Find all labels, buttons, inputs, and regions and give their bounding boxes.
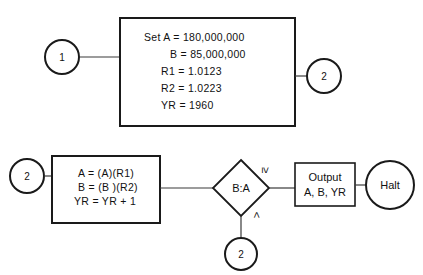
connector-circle-2-loop-label: 2 [238,249,244,260]
flowchart-svg: 1 Set A = 180,000,000 B = 85,000,000 R1 … [0,0,423,275]
init-box-line-1: Set A = 180,000,000 [144,31,245,43]
init-box-line-4: R2 = 1.0223 [161,82,222,94]
decision-branch-true-label: ≥ [260,167,272,173]
init-box-line-5: YR = 1960 [161,99,214,111]
halt-label: Halt [380,179,400,191]
output-box-line-2: A, B, YR [304,186,346,198]
decision-branch-false-label: < [251,212,263,218]
connector-circle-1-label: 1 [59,52,65,63]
init-box-line-3: R1 = 1.0123 [161,65,222,77]
process-box-line-3: YR = YR + 1 [74,195,136,207]
decision-label: B:A [232,182,250,194]
flowchart-canvas: 1 Set A = 180,000,000 B = 85,000,000 R1 … [0,0,423,275]
output-box-line-1: Output [308,171,341,183]
output-box[interactable] [295,163,355,206]
process-box-line-2: B = (B )(R2) [78,181,138,193]
connector-circle-2-out-label: 2 [321,71,327,82]
init-box-line-2: B = 85,000,000 [170,48,246,60]
connector-circle-2-in-label: 2 [24,171,30,182]
process-box-line-1: A = (A)(R1) [78,167,134,179]
